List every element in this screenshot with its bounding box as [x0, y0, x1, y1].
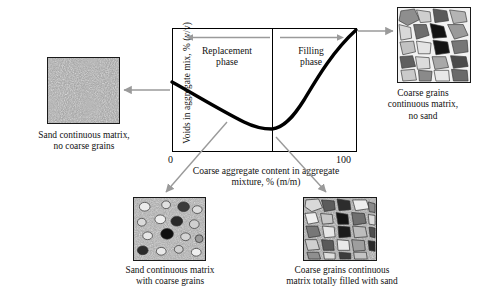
caption-coarse-line2: continuous matrix, [370, 99, 476, 110]
sand-texture-image [48, 58, 119, 123]
caption-coarse-line1: Coarse grains [370, 88, 476, 99]
connector-to-mix-sand-panel [166, 122, 227, 192]
caption-mix-filled-panel: Coarse grains continuous matrix totally … [254, 265, 430, 288]
connector-to-mix-filled-panel [276, 137, 326, 192]
coarse-grains-image [398, 8, 470, 82]
caption-mix-sand-line1: Sand continuous matrix [99, 265, 241, 276]
sand-with-grains-image [134, 198, 205, 260]
figure-canvas: Voids in aggregate mix, % (v/v) Coarse a… [0, 0, 477, 301]
caption-mix-filled-line2: matrix totally filled with sand [254, 276, 430, 287]
panel-coarse-matrix-filled-with-sand [303, 197, 377, 261]
caption-mix-sand-line2: with coarse grains [99, 276, 241, 287]
panel-sand-matrix-with-coarse-grains [133, 197, 206, 261]
caption-coarse-line3: no sand [370, 111, 476, 122]
coarse-filled-image [304, 198, 376, 260]
caption-mix-filled-line1: Coarse grains continuous [254, 265, 430, 276]
caption-coarse-panel: Coarse grains continuous matrix, no sand [370, 88, 476, 122]
caption-sand-panel: Sand continuous matrix, no coarse grains [14, 130, 154, 153]
caption-mix-sand-panel: Sand continuous matrix with coarse grain… [99, 265, 241, 288]
caption-sand-line1: Sand continuous matrix, [14, 130, 154, 141]
panel-coarse-continuous-matrix [397, 7, 471, 83]
panel-sand-continuous-matrix [47, 57, 120, 124]
caption-sand-line2: no coarse grains [14, 141, 154, 152]
